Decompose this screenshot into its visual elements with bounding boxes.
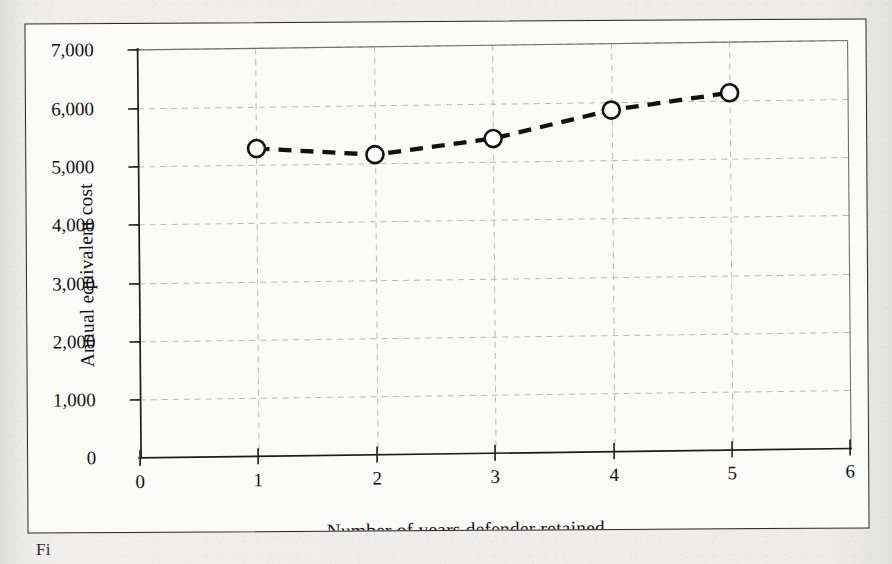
figure-caption: Fi <box>36 540 51 560</box>
x-tick-label-6: 6 <box>824 460 868 482</box>
data-point-3 <box>485 130 502 147</box>
y-axis-title: Annual equivalent cost <box>75 155 100 395</box>
axis-lines <box>137 45 851 458</box>
x-tick-label-3: 3 <box>469 466 521 488</box>
x-tick-label-2: 2 <box>351 467 403 489</box>
data-point-5 <box>721 84 738 101</box>
x-tick-label-4: 4 <box>588 464 640 486</box>
x-tick-label-0: 0 <box>114 471 166 493</box>
y-tick-label-7000: 7,000 <box>25 39 93 62</box>
figure-frame: 7,000 6,000 5,000 4,000 3,000 2,000 1,00… <box>24 18 869 533</box>
grid-horizontal <box>138 41 850 400</box>
data-point-2 <box>366 146 383 163</box>
y-tick-label-0: 0 <box>25 447 96 470</box>
y-tick-label-6000: 6,000 <box>25 98 94 121</box>
x-tick-label-5: 5 <box>706 462 758 484</box>
data-point-4 <box>603 102 620 119</box>
line-chart <box>25 19 868 532</box>
x-axis-title: Number of years defender retained <box>326 517 605 532</box>
data-point-1 <box>248 140 265 157</box>
figure-inner: 7,000 6,000 5,000 4,000 3,000 2,000 1,00… <box>25 19 868 532</box>
x-tick-label-1: 1 <box>232 469 284 491</box>
grid-vertical <box>256 41 734 456</box>
